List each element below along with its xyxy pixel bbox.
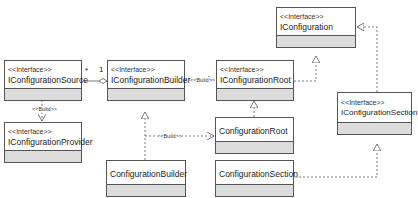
class-iconfiguration-section[interactable]: <<Interface>>IConfigurationSection — [337, 92, 412, 135]
class-name: ConfigurationBuilder — [110, 168, 182, 180]
class-configuration-root[interactable]: ConfigurationRoot — [215, 117, 294, 154]
build-label-provider: <<Build>> — [32, 106, 57, 113]
class-iconfiguration-root[interactable]: <<Interface>>IConfigurationRoot — [216, 60, 294, 101]
compartment — [108, 89, 184, 100]
compartment — [338, 123, 411, 134]
class-iconfiguration-builder[interactable]: <<Interface>>IConfigurationBuilder — [107, 60, 185, 101]
stereotype: <<Interface>> — [111, 65, 181, 74]
compartment — [5, 151, 81, 162]
class-name: IConfigurationProvider — [8, 136, 78, 148]
stereotype: <<Interface>> — [8, 65, 78, 74]
multiplicity-many: * — [85, 66, 88, 75]
compartment — [217, 89, 293, 100]
build-label-croot: <<Build>> — [157, 133, 182, 140]
stereotype: <<Interface>> — [220, 65, 290, 74]
class-name: IConfigurationSection — [341, 107, 408, 119]
compartment — [107, 185, 185, 196]
compartment — [277, 36, 355, 47]
class-name: ConfigurationSection — [219, 168, 290, 180]
compartment — [216, 142, 293, 153]
class-iconfiguration-provider[interactable]: <<Interface>>IConfigurationProvider — [4, 122, 82, 163]
class-name: IConfigurationBuilder — [111, 74, 181, 86]
class-name: IConfigurationSource — [8, 74, 78, 86]
class-configuration-section[interactable]: ConfigurationSection — [215, 160, 294, 197]
stereotype: <<Interface>> — [8, 127, 78, 136]
class-configuration-builder[interactable]: ConfigurationBuilder — [106, 160, 186, 197]
compartment — [5, 89, 81, 100]
class-name: IConfigurationRoot — [220, 74, 290, 86]
multiplicity-one: 1 — [99, 65, 103, 74]
build-label-root: <<Build>> — [190, 77, 215, 84]
class-name: ConfigurationRoot — [219, 125, 290, 137]
class-name: IConfiguration — [280, 21, 352, 33]
stereotype: <<Interface>> — [280, 12, 352, 21]
stereotype: <<Interface>> — [341, 98, 408, 107]
class-iconfiguration-source[interactable]: <<Interface>>IConfigurationSource — [4, 60, 82, 101]
compartment — [216, 185, 293, 196]
class-iconfiguration[interactable]: <<Interface>>IConfiguration — [276, 7, 356, 48]
